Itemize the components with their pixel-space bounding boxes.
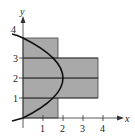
y-tick-1: 1: [13, 93, 18, 104]
y-axis-arrow-icon: [21, 16, 26, 23]
x-tick-3: 3: [80, 123, 85, 134]
x-axis-label: x: [124, 113, 130, 124]
x-tick-1: 1: [40, 123, 45, 134]
y-tick-4: 4: [11, 24, 16, 35]
x-tick-4: 4: [100, 123, 105, 134]
y-tick-3: 3: [13, 53, 18, 64]
x-tick-2: 2: [60, 123, 65, 134]
riemann-figure: 1 2 3 4 1 2 3 4 x y: [0, 0, 135, 138]
y-axis-label: y: [19, 6, 25, 17]
x-axis-arrow-icon: [117, 116, 124, 121]
y-tick-2: 2: [13, 73, 18, 84]
